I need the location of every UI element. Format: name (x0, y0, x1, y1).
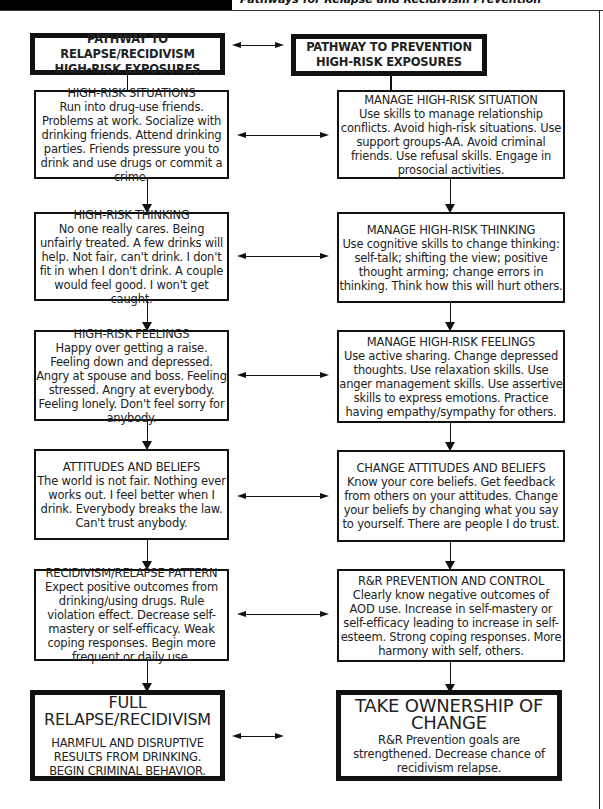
box-title: ATTITUDES AND BELIEFS (36, 460, 227, 474)
left-box-high-risk-thinking: HIGH-RISK THINKING No one really cares. … (34, 212, 229, 301)
box-body: Know your core beliefs. Get feedback fro… (339, 475, 563, 531)
right-final-box: TAKE OWNERSHIP OF CHANGE R&R Prevention … (336, 690, 562, 781)
box-body: Expect positive outcomes from drinking/u… (36, 580, 227, 664)
box-title: CHANGE ATTITUDES AND BELIEFS (339, 461, 563, 475)
box-title: HIGH-RISK FEELINGS (36, 327, 227, 341)
bidirectional-arrow-icon (237, 251, 329, 261)
right-box-rr-prevention: R&R PREVENTION AND CONTROL Clearly know … (337, 569, 565, 662)
left-box-attitudes-beliefs: ATTITUDES AND BELIEFS The world is not f… (34, 449, 229, 540)
left-heading-box: PATHWAY TO RELAPSE/RECIDIVISM HIGH-RISK … (30, 33, 225, 75)
final-body: HARMFUL AND DISRUPTIVE RESULTS FROM DRIN… (35, 736, 220, 778)
right-box-change-attitudes: CHANGE ATTITUDES AND BELIEFS Know your c… (337, 450, 565, 542)
left-final-box: FULL RELAPSE/RECIDIVISM HARMFUL AND DISR… (30, 690, 225, 781)
bidirectional-arrow-icon (237, 491, 329, 501)
bidirectional-arrow-icon (237, 130, 329, 140)
bidirectional-arrow-icon (237, 609, 329, 619)
box-title: MANAGE HIGH-RISK SITUATION (339, 93, 563, 107)
right-heading-line2: HIGH-RISK EXPOSURES (296, 55, 482, 70)
left-box-high-risk-situations: HIGH-RISK SITUATIONS Run into drug-use f… (34, 90, 229, 179)
final-title: TAKE OWNERSHIP OF CHANGE (341, 697, 557, 731)
box-title: MANAGE HIGH-RISK FEELINGS (339, 335, 563, 349)
box-body: Use skills to manage relationship confli… (339, 107, 563, 177)
box-title: RECIDIVISM/RELAPSE PATTERN (36, 566, 227, 580)
box-body: No one really cares. Being unfairly trea… (36, 222, 227, 306)
box-body: Run into drug-use friends. Problems at w… (36, 100, 227, 184)
box-body: The world is not fair. Nothing ever work… (36, 474, 227, 530)
box-title: HIGH-RISK SITUATIONS (36, 86, 227, 100)
final-body: R&R Prevention goals are strengthened. D… (341, 733, 557, 775)
box-body: Use cognitive skills to change thinking:… (339, 237, 563, 293)
box-title: HIGH-RISK THINKING (36, 208, 227, 222)
left-heading-line1: PATHWAY TO RELAPSE/RECIDIVISM (35, 32, 220, 62)
box-title: R&R PREVENTION AND CONTROL (339, 574, 563, 588)
final-title: FULL RELAPSE/RECIDIVISM (35, 694, 220, 728)
left-box-high-risk-feelings: HIGH-RISK FEELINGS Happy over getting a … (34, 330, 229, 421)
header-black-bar (0, 0, 232, 10)
bidirectional-arrow-icon (232, 40, 284, 50)
bidirectional-arrow-icon (232, 731, 284, 741)
right-heading-box: PATHWAY TO PREVENTION HIGH-RISK EXPOSURE… (291, 34, 487, 76)
right-box-manage-feelings: MANAGE HIGH-RISK FEELINGS Use active sha… (337, 330, 565, 423)
box-title: MANAGE HIGH-RISK THINKING (339, 223, 563, 237)
right-box-manage-situation: MANAGE HIGH-RISK SITUATION Use skills to… (337, 90, 565, 179)
bidirectional-arrow-icon (237, 370, 329, 380)
box-body: Happy over getting a raise. Feeling down… (36, 341, 227, 425)
right-box-manage-thinking: MANAGE HIGH-RISK THINKING Use cognitive … (337, 212, 565, 303)
box-body: Use active sharing. Change depressed tho… (339, 349, 563, 419)
header-title: Pathways for Relapse and Recidivism Prev… (240, 0, 541, 6)
right-heading-line1: PATHWAY TO PREVENTION (296, 40, 482, 55)
left-box-recidivism-pattern: RECIDIVISM/RELAPSE PATTERN Expect positi… (34, 569, 229, 661)
box-body: Clearly know negative outcomes of AOD us… (339, 588, 563, 658)
connector-line (390, 76, 392, 90)
